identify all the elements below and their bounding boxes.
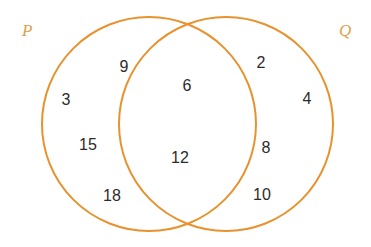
venn-value-4: 4 <box>303 91 312 107</box>
venn-value-3: 3 <box>62 92 71 108</box>
set-label-q: Q <box>339 22 351 39</box>
venn-value-15: 15 <box>79 137 97 153</box>
set-label-p: P <box>22 22 32 39</box>
venn-value-6: 6 <box>183 78 192 94</box>
venn-value-9: 9 <box>120 59 129 75</box>
venn-value-18: 18 <box>103 188 121 204</box>
venn-circles-svg <box>0 0 371 247</box>
venn-value-2: 2 <box>257 55 266 71</box>
venn-value-8: 8 <box>262 140 271 156</box>
venn-diagram-canvas: P Q 93151861224810 <box>0 0 371 247</box>
venn-value-10: 10 <box>253 187 271 203</box>
venn-value-12: 12 <box>171 150 189 166</box>
